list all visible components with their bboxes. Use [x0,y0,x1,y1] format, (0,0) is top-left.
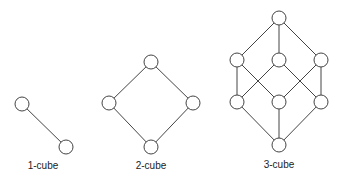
edge [109,62,151,103]
nodes [102,55,200,154]
vertex-node [15,97,29,111]
edge [279,18,321,60]
edges [22,104,66,147]
edge [237,18,279,60]
vertex-node [314,95,328,109]
vertex-node [230,95,244,109]
edges [237,18,321,145]
vertex-node [144,140,158,154]
vertex-node [59,140,73,154]
edge [109,103,151,147]
vertex-node [314,53,328,67]
label-2-cube: 2-cube [136,160,167,171]
hypercube-diagram: 1-cube 2-cube 3-cube [0,0,344,186]
vertex-node [272,53,286,67]
diagram-2-cube: 2-cube [102,55,200,171]
label-1-cube: 1-cube [28,160,59,171]
edge [22,104,66,147]
edge [151,103,193,147]
edge [151,62,193,103]
edge [237,102,279,145]
diagram-3-cube: 3-cube [230,11,328,170]
edge [279,102,321,145]
edges [109,62,193,147]
vertex-node [102,96,116,110]
vertex-node [272,11,286,25]
diagram-1-cube: 1-cube [15,97,73,171]
vertex-node [272,95,286,109]
vertex-node [186,96,200,110]
label-3-cube: 3-cube [264,159,295,170]
vertex-node [144,55,158,69]
vertex-node [230,53,244,67]
vertex-node [272,138,286,152]
